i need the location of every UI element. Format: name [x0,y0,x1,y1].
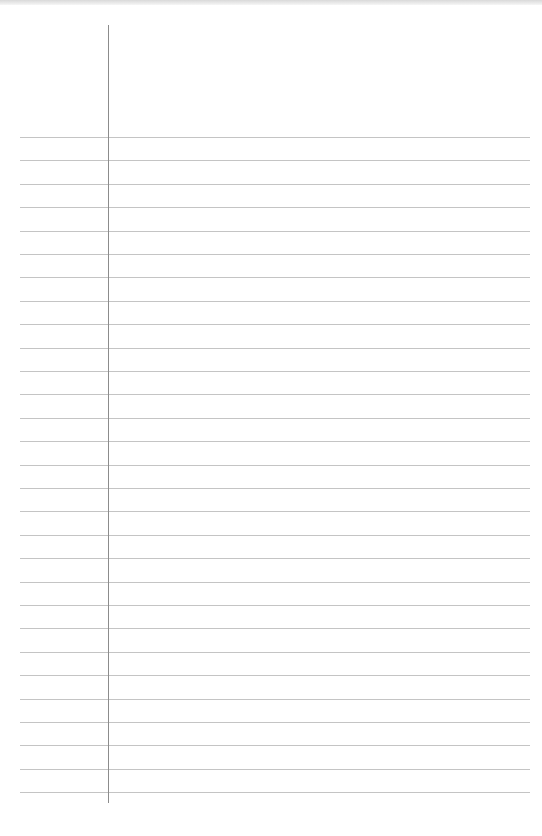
ruled-line [20,511,530,512]
torn-top-edge [0,0,542,5]
ruled-line [20,324,530,325]
ruled-line [20,207,530,208]
ruled-line [20,769,530,770]
ruled-line [20,675,530,676]
ruled-line [20,722,530,723]
ruled-line [20,231,530,232]
ruled-line [20,699,530,700]
ruled-line [20,652,530,653]
ruled-line [20,394,530,395]
ruled-line [20,301,530,302]
ruled-line [20,184,530,185]
ruled-line [20,418,530,419]
ruled-line [20,792,530,793]
ruled-line [20,371,530,372]
ruled-line [20,277,530,278]
ruled-line [20,137,530,138]
ruled-line [20,745,530,746]
ruled-line [20,582,530,583]
ruled-line [20,348,530,349]
ruled-line [20,254,530,255]
ruled-line [20,465,530,466]
ruled-line [20,628,530,629]
ruled-line [20,488,530,489]
ruled-line [20,160,530,161]
ruled-line [20,558,530,559]
ruled-line [20,535,530,536]
margin-line [108,25,109,803]
ruled-line [20,441,530,442]
notebook-page [0,0,542,836]
ruled-line [20,605,530,606]
